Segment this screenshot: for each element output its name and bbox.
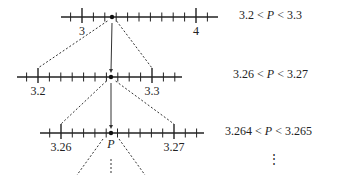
- point-marker: [109, 131, 113, 135]
- tick-label: 3.3: [145, 84, 160, 98]
- inequality-2: 3.26 < P < 3.27: [233, 67, 308, 82]
- number-line-2: 3.23.3: [17, 68, 182, 98]
- number-line-3: 3.263.27P: [40, 124, 204, 154]
- nested-interval-diagram: 343.23.33.263.27P: [0, 0, 338, 180]
- arrow-down-icon: [109, 125, 113, 129]
- tick-label: 4: [193, 24, 199, 38]
- number-line-1: 34: [61, 8, 218, 38]
- tick-label: 3.27: [164, 140, 185, 154]
- arrow-down-icon: [109, 69, 113, 73]
- point-marker: [110, 15, 114, 19]
- continuation-ellipsis: ⋮: [268, 152, 280, 167]
- zoom-connector-1: [38, 21, 152, 73]
- inequality-3: 3.264 < P < 3.265: [225, 124, 312, 139]
- tick-label: 3.2: [31, 84, 46, 98]
- inequality-1: 3.2 < P < 3.3: [239, 8, 302, 23]
- tick-label: 3: [79, 24, 85, 38]
- point-label: P: [106, 137, 115, 151]
- tick-label: 3.26: [51, 140, 72, 154]
- point-marker: [109, 75, 113, 79]
